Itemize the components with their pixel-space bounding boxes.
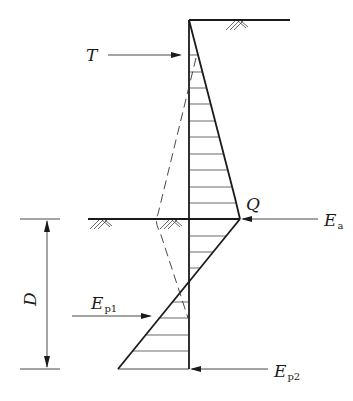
net-pressure-line bbox=[118, 219, 240, 369]
active-force-label: Ea bbox=[323, 210, 343, 231]
arrowhead-icon bbox=[44, 220, 50, 232]
passive-pressure-hatching bbox=[133, 302, 189, 351]
arrowhead-icon bbox=[44, 356, 50, 368]
arrowhead-icon bbox=[141, 313, 152, 319]
soil-hatch-icon-top bbox=[226, 20, 248, 30]
active-pressure-hatching bbox=[189, 55, 236, 203]
passive2-force-label: Ep2 bbox=[273, 361, 300, 382]
tie-force-label: T bbox=[86, 45, 99, 65]
upper-net-pressure-hatching bbox=[189, 236, 226, 268]
soil-hatch-icon-left bbox=[90, 219, 112, 229]
embedment-depth-label: D bbox=[20, 292, 40, 307]
soil-hatch-icon-right bbox=[160, 219, 182, 229]
arrowhead-icon bbox=[190, 366, 201, 372]
active-pressure-line bbox=[189, 20, 240, 219]
arrowhead-icon bbox=[241, 216, 252, 222]
sheet-pile-pressure-diagram: T Q Ea Ep1 Ep2 D bbox=[0, 0, 353, 401]
arrowhead-icon bbox=[171, 52, 182, 58]
passive1-force-label: Ep1 bbox=[90, 293, 117, 314]
point-q-label: Q bbox=[246, 194, 260, 214]
